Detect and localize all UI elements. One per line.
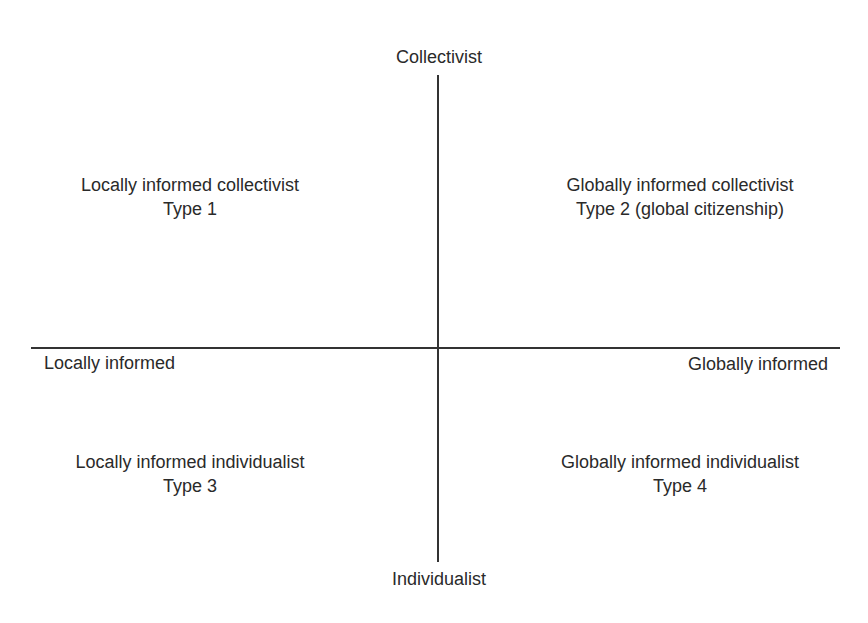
quadrant-type-4: Globally informed individualist Type 4 [520,450,840,498]
quadrant-title: Globally informed individualist [520,450,840,474]
quadrant-title: Locally informed individualist [40,450,340,474]
axis-label-collectivist: Collectivist [339,46,539,68]
axis-label-individualist: Individualist [339,568,539,590]
quadrant-type-1: Locally informed collectivist Type 1 [40,173,340,221]
quadrant-title: Locally informed collectivist [40,173,340,197]
horizontal-axis-line [31,347,840,349]
quadrant-type-label: Type 1 [40,197,340,221]
axis-label-globally-informed: Globally informed [688,353,828,375]
quadrant-type-3: Locally informed individualist Type 3 [40,450,340,498]
quadrant-type-2: Globally informed collectivist Type 2 (g… [530,173,830,221]
quadrant-title: Globally informed collectivist [530,173,830,197]
quadrant-type-label: Type 4 [520,474,840,498]
quadrant-type-label: Type 2 (global citizenship) [530,197,830,221]
axis-label-locally-informed: Locally informed [44,352,175,374]
quadrant-type-label: Type 3 [40,474,340,498]
vertical-axis-line [437,75,439,562]
